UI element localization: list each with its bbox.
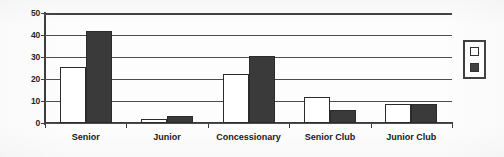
bar-chart-figure: 01020304050 SeniorJuniorConcessionarySen… <box>0 0 504 157</box>
bar-senior-series-1 <box>60 67 86 123</box>
y-tick-mark-30 <box>41 57 45 58</box>
bar-junior-club-series-1 <box>385 104 411 123</box>
x-axis-label-junior: Junior <box>126 131 207 143</box>
bar-junior-series-2 <box>167 116 193 123</box>
bar-senior-club-series-1 <box>304 97 330 123</box>
x-axis-label-senior-club: Senior Club <box>289 131 370 143</box>
x-axis-label-concessionary: Concessionary <box>208 131 289 143</box>
legend-open-square-swatch-icon <box>470 47 479 56</box>
x-tick-mark-1 <box>126 124 127 128</box>
chart-legend[interactable] <box>463 40 486 79</box>
x-tick-mark-0 <box>45 124 46 128</box>
bar-senior-series-2 <box>86 31 112 123</box>
bar-senior-club-series-2 <box>330 110 356 123</box>
x-axis-labels: SeniorJuniorConcessionarySenior ClubJuni… <box>45 131 452 147</box>
bar-concessionary-series-1 <box>223 74 249 124</box>
bar-concessionary-series-2 <box>249 56 275 123</box>
x-tick-mark-3 <box>289 124 290 128</box>
y-tick-label-10: 10 <box>6 97 40 106</box>
x-tick-mark-2 <box>208 124 209 128</box>
y-tick-label-30: 30 <box>6 53 40 62</box>
y-tick-label-50: 50 <box>6 9 40 18</box>
x-tick-mark-5 <box>452 124 453 128</box>
y-tick-label-40: 40 <box>6 31 40 40</box>
y-tick-label-0: 0 <box>6 119 40 128</box>
x-axis-label-senior: Senior <box>45 131 126 143</box>
gridline-50 <box>45 13 452 15</box>
x-axis-label-junior-club: Junior Club <box>371 131 452 143</box>
y-tick-label-20: 20 <box>6 75 40 84</box>
gridline-0 <box>45 123 452 124</box>
x-tick-mark-4 <box>371 124 372 128</box>
bar-junior-series-1 <box>141 119 167 123</box>
plot-area <box>45 13 452 123</box>
y-tick-mark-20 <box>41 79 45 80</box>
legend-filled-square-swatch-icon <box>470 63 479 72</box>
y-tick-mark-50 <box>41 13 45 14</box>
bar-junior-club-series-2 <box>411 104 437 123</box>
y-tick-mark-10 <box>41 101 45 102</box>
y-axis-labels: 01020304050 <box>0 0 40 157</box>
y-tick-mark-40 <box>41 35 45 36</box>
